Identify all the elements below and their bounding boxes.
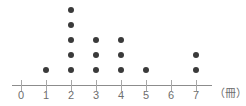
data-dot [193,67,199,73]
data-dot [93,37,99,43]
x-axis-tick-label-6: 6 [161,88,181,102]
data-dot [118,52,124,58]
x-axis-tick-label-5: 5 [136,88,156,102]
data-dot [193,52,199,58]
data-dot [93,67,99,73]
data-dot [118,67,124,73]
x-axis-tick-label-3: 3 [86,88,106,102]
data-dot [68,37,74,43]
data-dot [118,37,124,43]
data-dot [68,67,74,73]
x-axis-tick-label-0: 0 [11,88,31,102]
x-axis-unit-label: （冊） [214,87,246,100]
x-axis-tick-label-2: 2 [61,88,81,102]
data-dot [68,7,74,13]
data-dot [143,67,149,73]
dot-plot-chart: 01234567 （冊） [0,0,246,106]
data-dot [68,22,74,28]
x-axis-tick-label-1: 1 [36,88,56,102]
x-axis-line [12,85,212,86]
data-dot [68,52,74,58]
data-dot [93,52,99,58]
x-axis-tick-label-4: 4 [111,88,131,102]
data-dot [43,67,49,73]
x-axis-tick-label-7: 7 [186,88,206,102]
